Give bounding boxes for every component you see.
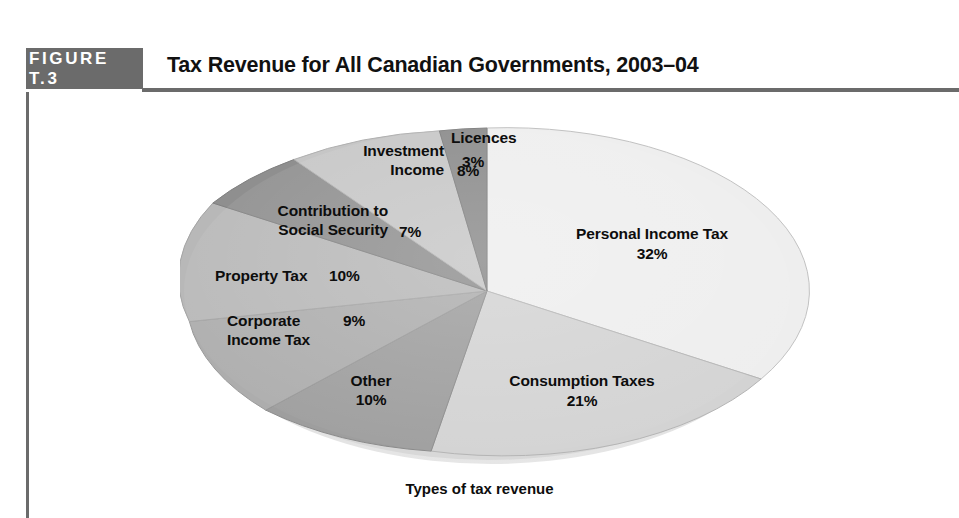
pie-chart-area: Licences 3% Investment Income 8% Contrib… — [0, 96, 959, 476]
figure-page: FIGURE T.3 Tax Revenue for All Canadian … — [0, 0, 959, 518]
pie-chart — [180, 104, 820, 474]
pie-slices — [180, 128, 809, 456]
figure-number-tab: FIGURE T.3 — [26, 48, 143, 89]
figure-title: Tax Revenue for All Canadian Governments… — [167, 53, 699, 78]
chart-caption: Types of tax revenue — [0, 480, 959, 497]
header-divider — [142, 88, 959, 92]
